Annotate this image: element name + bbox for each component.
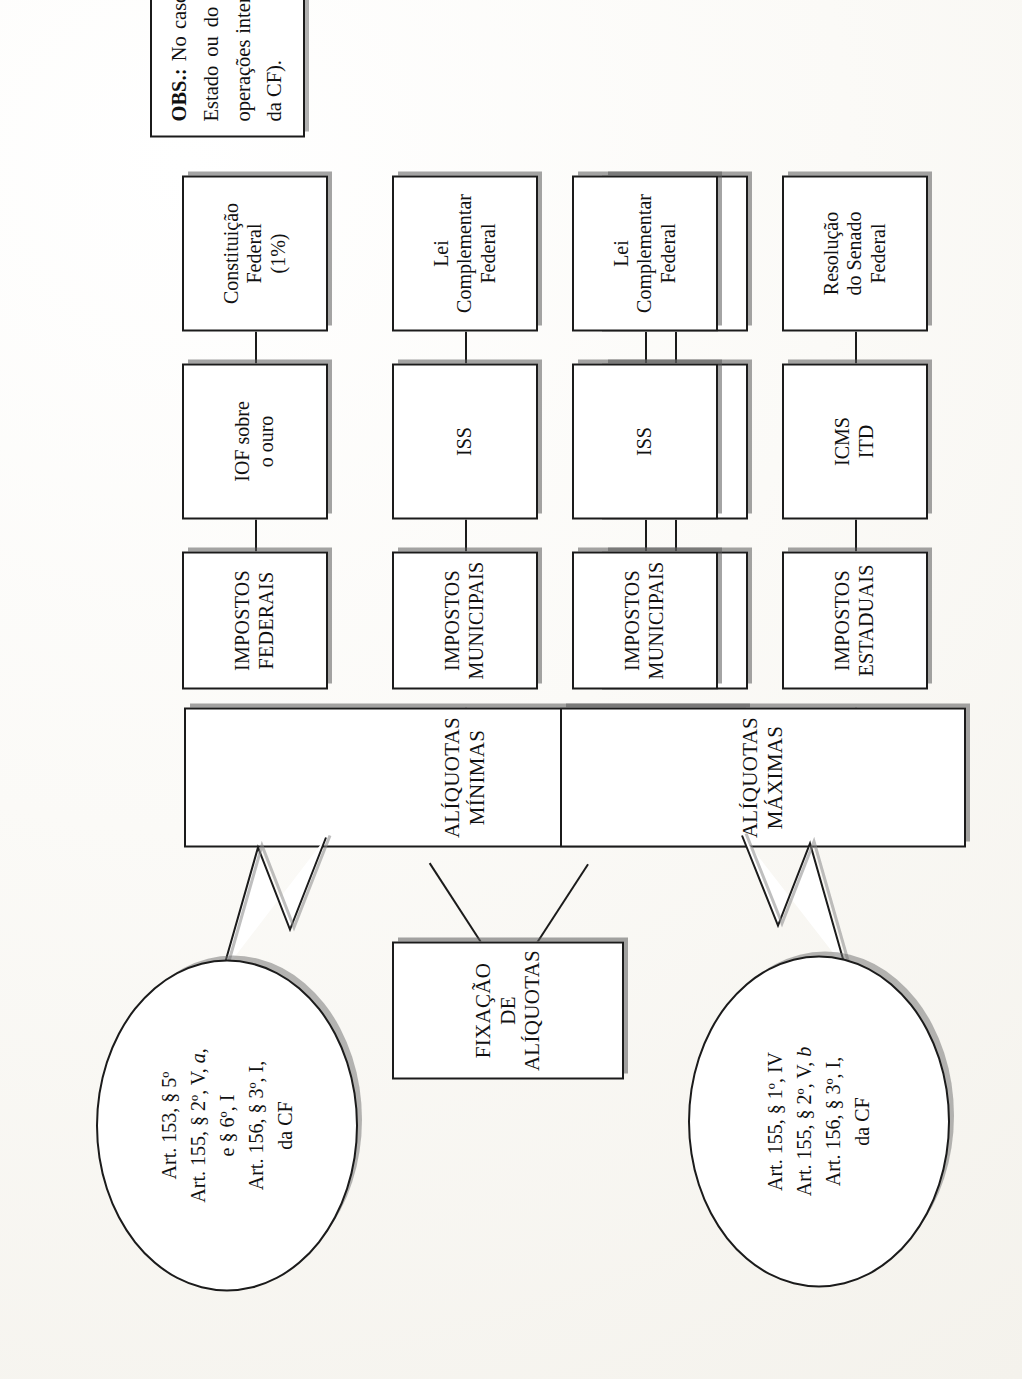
callout-maximas-line-1: Art. 155, § 2º, V, b [790, 1046, 819, 1195]
node-min-source-constituicao-federal-label: ConstituiçãoFederal(1%) [220, 202, 291, 303]
node-min-scope-federais-label: IMPOSTOSFEDERAIS [231, 570, 278, 671]
node-min-source-lei-complementar[interactable]: LeiComplementarFederal [392, 175, 538, 331]
node-min-scope-municipais[interactable]: IMPOSTOSMUNICIPAIS [392, 551, 538, 689]
callout-minimas-lines: Art. 153, § 5º Art. 155, § 2º, V, a, e §… [155, 1048, 300, 1202]
node-max-source-lei-complementar[interactable]: LeiComplementarFederal [572, 175, 718, 331]
node-branch-minimas-label: ALÍQUOTASMÍNIMAS [440, 716, 490, 837]
node-min-tax-iss-label: ISS [453, 427, 477, 456]
node-max-source-resolucao-senado[interactable]: Resoluçãodo SenadoFederal [782, 175, 928, 331]
node-min-source-lei-complementar-label: LeiComplementarFederal [430, 194, 501, 313]
edge-chain-est-max-2 [855, 331, 857, 363]
node-max-scope-municipais-label: IMPOSTOSMUNICIPAIS [621, 561, 668, 679]
callout-minimas-line-2: e § 6º, I [213, 1048, 242, 1202]
edge-chain-fed-1 [255, 519, 257, 551]
callout-maximas-line-0: Art. 155, § 1º, IV [761, 1046, 790, 1195]
callout-maximas-bubble[interactable]: Art. 155, § 1º, IV Art. 155, § 2º, V, b … [688, 955, 950, 1287]
node-min-scope-municipais-label: IMPOSTOSMUNICIPAIS [441, 561, 488, 679]
callout-maximas-lines: Art. 155, § 1º, IV Art. 155, § 2º, V, b … [761, 1046, 877, 1195]
node-max-source-resolucao-senado-label: Resoluçãodo SenadoFederal [820, 211, 891, 295]
obs-note: OBS.: No caso do ICMS, tanto as alíquota… [150, 0, 305, 137]
edge-chain-mun-max-1 [645, 519, 647, 551]
callout-minimas-bubble[interactable]: Art. 153, § 5º Art. 155, § 2º, V, a, e §… [96, 959, 358, 1291]
obs-note-prefix: OBS.: [168, 68, 190, 121]
node-min-tax-iof-ouro-label: IOF sobreo ouro [231, 401, 278, 482]
edge-chain-mun-min-2 [465, 331, 467, 363]
callout-minimas-line-0: Art. 153, § 5º [155, 1048, 184, 1202]
edge-chain-fed-2 [255, 331, 257, 363]
node-max-tax-icms-itd-label: ICMSITD [831, 417, 878, 466]
node-root-fixacao-aliquotas[interactable]: FIXAÇÃO DEALÍQUOTAS [392, 941, 624, 1079]
edge-root-to-maximas [536, 863, 589, 943]
callout-minimas-line-1: Art. 155, § 2º, V, a, [184, 1048, 213, 1202]
callout-minimas-tail [214, 815, 334, 975]
edge-chain-est-min-2 [675, 331, 677, 363]
node-root-label: FIXAÇÃO DEALÍQUOTAS [471, 947, 545, 1073]
edge-chain-mun-min-1 [465, 519, 467, 551]
node-max-scope-municipais[interactable]: IMPOSTOSMUNICIPAIS [572, 551, 718, 689]
node-min-scope-federais[interactable]: IMPOSTOSFEDERAIS [182, 551, 328, 689]
node-min-source-constituicao-federal[interactable]: ConstituiçãoFederal(1%) [182, 175, 328, 331]
node-max-source-lei-complementar-label: LeiComplementarFederal [610, 194, 681, 313]
callout-minimas-line-4: da CF [271, 1048, 300, 1202]
node-max-tax-iss-label: ISS [633, 427, 657, 456]
callout-maximas-line-2: Art. 156, § 3º, I, [819, 1046, 848, 1195]
node-max-scope-estaduais-label: IMPOSTOSESTADUAIS [831, 564, 878, 676]
edge-root-to-minimas [429, 862, 482, 942]
node-min-tax-iss[interactable]: ISS [392, 363, 538, 519]
node-max-scope-estaduais[interactable]: IMPOSTOSESTADUAIS [782, 551, 928, 689]
node-max-tax-iss[interactable]: ISS [572, 363, 718, 519]
callout-maximas-line-3: da CF [848, 1046, 877, 1195]
callout-maximas-tail [736, 813, 856, 973]
edge-chain-est-max-1 [855, 519, 857, 551]
callout-minimas-line-3: Art. 156, § 3º, I, [242, 1048, 271, 1202]
diagram-stage: FIXAÇÃO DEALÍQUOTAS ALÍQUOTASMÍNIMAS ALÍ… [0, 0, 1022, 1379]
edge-chain-est-min-1 [675, 519, 677, 551]
node-min-tax-iof-ouro[interactable]: IOF sobreo ouro [182, 363, 328, 519]
node-max-tax-icms-itd[interactable]: ICMSITD [782, 363, 928, 519]
edge-chain-mun-max-2 [645, 331, 647, 363]
